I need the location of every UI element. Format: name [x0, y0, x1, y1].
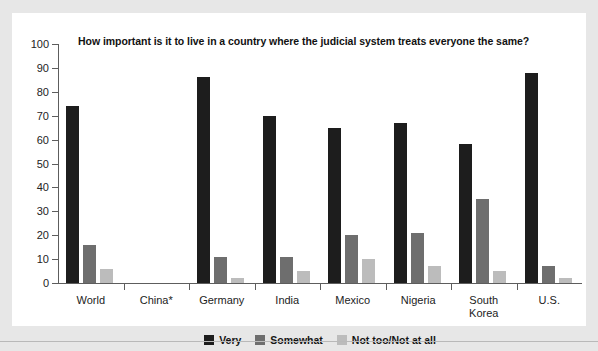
y-axis-line — [58, 44, 59, 283]
bar — [559, 278, 572, 283]
legend-label: Not too/Not at all — [352, 334, 436, 346]
chart-legend: VerySomewhatNot too/Not at all — [58, 334, 582, 346]
y-tick-mark — [52, 211, 58, 212]
bar — [525, 73, 538, 283]
legend-swatch-icon — [204, 335, 214, 345]
bar — [428, 266, 441, 283]
bar — [411, 233, 424, 283]
y-tick-mark — [52, 44, 58, 45]
bar — [459, 144, 472, 283]
bar — [297, 271, 310, 283]
x-axis-label: U.S. — [539, 294, 560, 307]
x-axis-label: World — [76, 294, 105, 307]
y-tick-label: 20 — [37, 229, 49, 241]
x-axis-label: Nigeria — [401, 294, 436, 307]
category-separator — [386, 283, 387, 290]
bar — [280, 257, 293, 283]
y-tick-label: 10 — [37, 253, 49, 265]
bar — [100, 269, 113, 283]
y-tick-label: 40 — [37, 181, 49, 193]
category-separator — [451, 283, 452, 290]
legend-item: Very — [204, 334, 241, 346]
y-tick-label: 90 — [37, 62, 49, 74]
category-separator — [255, 283, 256, 290]
legend-label: Very — [219, 334, 241, 346]
bar — [328, 128, 341, 283]
category-separator — [189, 283, 190, 290]
bar-group — [394, 44, 441, 283]
x-axis-label: South Korea — [469, 294, 498, 320]
chart-panel: How important is it to live in a country… — [12, 13, 586, 326]
bar-group — [459, 44, 506, 283]
bar-group — [263, 44, 310, 283]
y-tick-label: 70 — [37, 110, 49, 122]
y-tick-label: 80 — [37, 86, 49, 98]
y-tick-label: 50 — [37, 158, 49, 170]
bar-group — [197, 44, 244, 283]
y-tick-mark — [52, 259, 58, 260]
y-tick-mark — [52, 68, 58, 69]
x-axis-label: India — [275, 294, 299, 307]
y-tick-label: 0 — [43, 277, 49, 289]
y-tick-mark — [52, 164, 58, 165]
bar — [394, 123, 407, 283]
bottom-divider — [0, 341, 598, 342]
bar — [476, 199, 489, 283]
bar — [263, 116, 276, 283]
bar — [214, 257, 227, 283]
bar-group — [328, 44, 375, 283]
x-axis-label: Mexico — [335, 294, 370, 307]
y-tick-mark — [52, 187, 58, 188]
legend-label: Somewhat — [270, 334, 323, 346]
bar — [83, 245, 96, 283]
bar — [66, 106, 79, 283]
y-tick-label: 100 — [31, 38, 49, 50]
x-axis-label: Germany — [199, 294, 244, 307]
legend-swatch-icon — [255, 335, 265, 345]
legend-item: Somewhat — [255, 334, 323, 346]
category-separator — [320, 283, 321, 290]
legend-item: Not too/Not at all — [337, 334, 436, 346]
bar — [362, 259, 375, 283]
y-tick-mark — [52, 283, 58, 284]
bar — [542, 266, 555, 283]
bar-group — [66, 44, 113, 283]
category-separator — [517, 283, 518, 290]
bar — [197, 77, 210, 283]
figure-background: How important is it to live in a country… — [0, 0, 598, 351]
x-axis-label: China* — [140, 294, 173, 307]
y-tick-label: 60 — [37, 134, 49, 146]
bar — [345, 235, 358, 283]
y-tick-label: 30 — [37, 205, 49, 217]
y-tick-mark — [52, 92, 58, 93]
bar — [493, 271, 506, 283]
bar-group — [525, 44, 572, 283]
y-tick-mark — [52, 235, 58, 236]
legend-swatch-icon — [337, 335, 347, 345]
bar-group — [132, 44, 179, 283]
y-tick-mark — [52, 140, 58, 141]
y-tick-mark — [52, 116, 58, 117]
plot-area: 0102030405060708090100 WorldChina*German… — [58, 44, 582, 283]
bar — [231, 278, 244, 283]
category-separator — [124, 283, 125, 290]
